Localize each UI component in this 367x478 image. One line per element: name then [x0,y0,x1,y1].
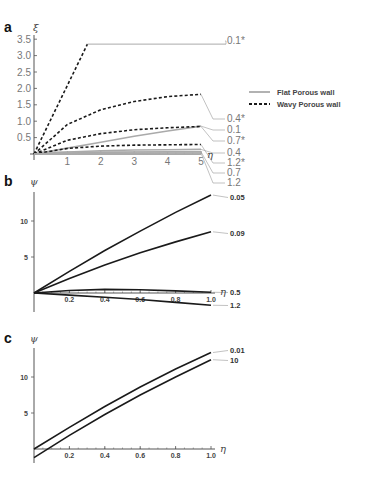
x-tick-label: 5 [198,156,204,167]
x-tick-label: 1 [65,156,71,167]
panel-label-c: c [4,330,12,346]
legend: Flat Porous wallWavy Porous wall [249,88,341,109]
y-tick-label: 1.0 [17,116,31,127]
curve-label: 0.01 [230,346,245,355]
y-tick-label: 5 [24,410,28,417]
x-tick-label: 1.0 [206,452,216,459]
curve-label: 10 [230,356,238,365]
x-axis-label: η [207,149,213,160]
y-axis-label: ψ [30,176,38,187]
y-tick-label: 0.5 [17,132,31,143]
curve-label: 1.2 [230,301,240,310]
curve-label: 0.5 [230,288,240,297]
panel-c: cψ5100.20.40.60.81.00.0110η [4,330,245,463]
x-tick-label: 0.6 [135,452,145,459]
curve-1_2 [34,293,211,305]
y-tick-label: 10 [20,374,28,381]
figure: aξ0.51.01.52.02.53.03.5123450.1*0.4*0.10… [0,0,367,478]
curve-label: 0.4* [227,113,245,124]
y-tick-label: 1.5 [17,99,31,110]
y-tick-label: 3.5 [17,34,31,45]
x-tick-label: 4 [165,156,171,167]
y-tick-label: 2.5 [17,67,31,78]
legend-wavy-label: Wavy Porous wall [277,100,341,109]
x-axis-label: η [220,286,226,297]
curve-label: 0.1 [227,124,241,135]
x-tick-label: 0.2 [65,296,75,303]
x-tick-label: 2 [98,156,104,167]
x-axis-label: η [220,443,226,454]
y-tick-label: 10 [20,218,28,225]
y-tick-label: 3.0 [17,50,31,61]
curve-0_05 [34,195,211,293]
y-tick-label: 2.0 [17,83,31,94]
curve-label: 0.1* [227,35,245,46]
legend-flat-label: Flat Porous wall [277,88,335,97]
curve-10 [34,360,211,458]
x-tick-label: 0.8 [171,452,181,459]
y-tick-label: 5 [24,254,28,261]
x-tick-label: 0.2 [65,452,75,459]
curve-label: 0.05 [230,193,245,202]
panel-label-b: b [4,173,13,189]
panel-a: aξ0.51.01.52.02.53.03.5123450.1*0.4*0.10… [4,19,245,188]
y-axis-label: ψ [30,333,38,344]
x-tick-label: 1.0 [206,296,216,303]
curve-0_01 [34,353,211,449]
x-tick-label: 0.4 [100,452,110,459]
curve-label: 1.2 [227,177,241,188]
x-tick-label: 3 [131,156,137,167]
panel-label-a: a [4,19,12,35]
panel-b: bψ5100.20.40.60.81.00.050.090.51.2η [4,173,245,312]
curve-label: 0.7* [227,135,245,146]
y-axis-label: ξ [33,22,39,33]
curve-label: 0.09 [230,229,245,238]
